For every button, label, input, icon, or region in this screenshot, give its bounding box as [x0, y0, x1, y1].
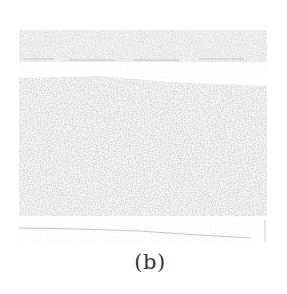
figure-image: [19, 30, 267, 243]
figure-panel: (b): [0, 0, 287, 294]
gap-band: [19, 62, 267, 78]
bottom-streak: [19, 216, 267, 243]
main-texture: [19, 76, 267, 216]
figure-caption: (b): [0, 250, 287, 274]
top-band: [19, 30, 267, 62]
